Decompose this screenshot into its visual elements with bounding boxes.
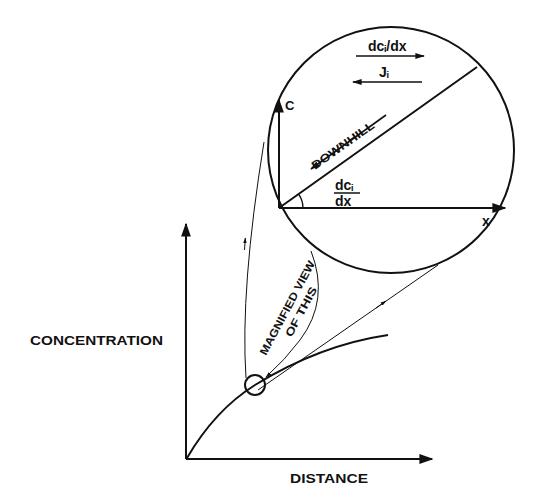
inset-circle [268, 27, 514, 273]
magnified-inset: C x dcᵢ dx DOWNHILL dcᵢ/dx Jᵢ [268, 27, 514, 273]
inset-c-axis-label: C [285, 98, 295, 113]
main-axes: CONCENTRATION DISTANCE [30, 224, 432, 486]
x-axis-label: DISTANCE [290, 471, 368, 486]
slope-label-denominator: dx [335, 193, 352, 209]
concentration-gradient-diagram: CONCENTRATION DISTANCE MAGNIFIED VIEW OF… [0, 0, 542, 504]
y-axis-label: CONCENTRATION [30, 333, 163, 348]
flux-arrow-label: Jᵢ [379, 64, 389, 80]
slope-line [279, 67, 477, 208]
concentration-curve [187, 335, 388, 458]
slope-angle-arc [299, 194, 304, 208]
gradient-arrow-label: dcᵢ/dx [368, 38, 407, 54]
downhill-arrow-icon [311, 115, 386, 169]
left-projection-arrow-icon [245, 238, 246, 250]
inset-x-axis-label: x [482, 213, 490, 229]
slope-label-numerator: dcᵢ [335, 177, 353, 193]
tangent-projection-arrow-icon [376, 301, 386, 308]
